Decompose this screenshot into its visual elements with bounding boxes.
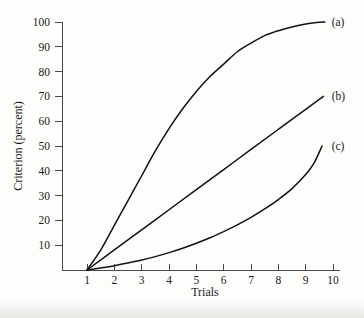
- curve-c: [87, 146, 322, 270]
- y-tick-label: 10: [39, 239, 51, 251]
- y-tick-label: 30: [39, 190, 51, 202]
- y-tick-label: 50: [39, 140, 51, 152]
- curve-labels: (a)(b)(c): [332, 16, 346, 153]
- data-curves: [87, 22, 325, 270]
- x-tick-label: 7: [248, 274, 254, 286]
- y-axis-ticks: [55, 22, 62, 245]
- y-axis-title: Criterion (percent): [11, 101, 25, 191]
- y-tick-label: 80: [39, 66, 51, 78]
- x-axis-ticks: [87, 264, 333, 270]
- x-tick-label: 6: [221, 274, 227, 286]
- learning-curves-figure: 102030405060708090100 12345678910 Criter…: [0, 0, 364, 318]
- curve-a: [87, 22, 325, 270]
- y-tick-label: 40: [39, 165, 51, 177]
- axes: [55, 22, 340, 270]
- y-tick-label: 20: [39, 214, 51, 226]
- curve-b: [87, 96, 323, 270]
- y-tick-label: 60: [39, 115, 51, 127]
- y-tick-label: 100: [33, 16, 51, 28]
- x-tick-label: 2: [111, 274, 117, 286]
- curve-label-b: (b): [332, 90, 346, 103]
- x-tick-label: 9: [303, 274, 309, 286]
- x-tick-label: 8: [275, 274, 281, 286]
- curve-label-a: (a): [332, 16, 345, 29]
- chart-canvas: 102030405060708090100 12345678910 Criter…: [0, 0, 364, 318]
- x-tick-label: 10: [327, 274, 339, 286]
- y-axis-tick-labels: 102030405060708090100: [33, 16, 51, 251]
- x-tick-label: 3: [139, 274, 145, 286]
- x-axis-title: Trials: [191, 285, 219, 299]
- y-tick-label: 70: [39, 90, 51, 102]
- x-tick-label: 4: [166, 274, 172, 286]
- curve-label-c: (c): [332, 140, 345, 153]
- axis-lines: [62, 22, 340, 270]
- x-tick-label: 1: [84, 274, 90, 286]
- y-tick-label: 90: [39, 41, 51, 53]
